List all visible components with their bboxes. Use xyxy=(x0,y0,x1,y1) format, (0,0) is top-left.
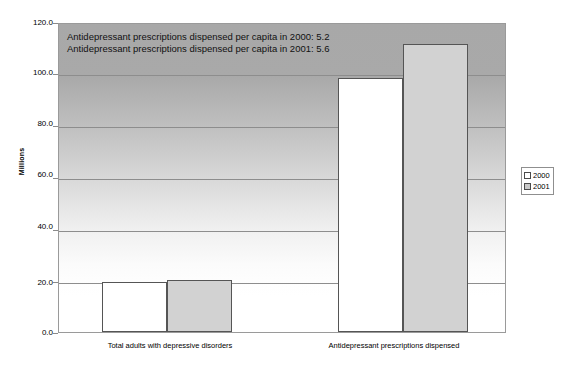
x-category-label-total-adults: Total adults with depressive disorders xyxy=(58,341,282,350)
y-tick-label: 40.0 xyxy=(7,223,53,231)
plot-area: Antidepressant prescriptions dispensed p… xyxy=(58,23,506,333)
y-tick-label: 100.0 xyxy=(7,69,53,77)
x-category-label-prescriptions: Antidepressant prescriptions dispensed xyxy=(282,341,506,350)
legend-item-2000[interactable]: 2000 xyxy=(524,170,550,181)
bar-2001-total-adults xyxy=(167,280,232,332)
legend-item-2001[interactable]: 2001 xyxy=(524,181,550,192)
annotation-per-capita-2000: Antidepressant prescriptions dispensed p… xyxy=(67,31,329,43)
bar-2000-prescriptions xyxy=(338,78,403,332)
bar-2001-prescriptions xyxy=(403,44,468,332)
legend-label: 2001 xyxy=(533,183,550,191)
y-tick-label: 0.0 xyxy=(7,329,53,337)
y-tick-label: 120.0 xyxy=(7,19,53,27)
y-tick-label: 80.0 xyxy=(7,120,53,128)
y-axis: 120.0 100.0 80.0 60.0 40.0 20.0 0.0 xyxy=(0,0,53,366)
legend-swatch-icon xyxy=(524,172,531,179)
y-tick-label: 20.0 xyxy=(7,279,53,287)
bar-chart: Millions 120.0 100.0 80.0 60.0 40.0 20.0… xyxy=(0,0,573,366)
legend: 2000 2001 xyxy=(521,167,554,195)
bar-2000-total-adults xyxy=(102,282,167,332)
y-tick-mark xyxy=(53,333,58,334)
annotation-per-capita-2001: Antidepressant prescriptions dispensed p… xyxy=(67,43,329,55)
legend-label: 2000 xyxy=(533,172,550,180)
legend-swatch-icon xyxy=(524,183,531,190)
y-tick-label: 60.0 xyxy=(7,171,53,179)
